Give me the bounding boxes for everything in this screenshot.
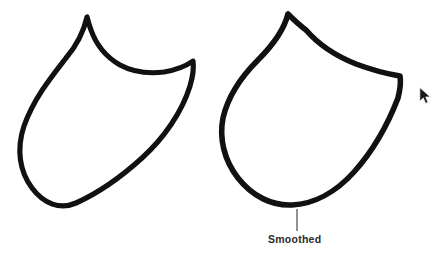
cursor-arrow-glyph <box>420 88 431 104</box>
mouse-pointer-icon <box>419 87 432 105</box>
shapes-illustration <box>0 0 441 259</box>
smoothed-label: Smoothed <box>268 234 321 245</box>
rough-path-shape[interactable] <box>20 17 194 206</box>
smooth-path-shape[interactable] <box>222 14 401 205</box>
illustration-canvas: Smoothed <box>0 0 441 259</box>
